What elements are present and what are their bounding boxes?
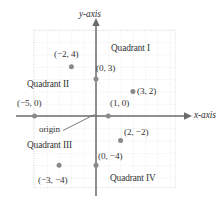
data-point: [106, 114, 111, 119]
x-axis-label: x-axis: [194, 111, 216, 120]
data-point: [118, 138, 123, 143]
data-point: [94, 77, 99, 82]
quadrant-2-label: Quadrant II: [27, 80, 69, 89]
point-label-neg2-4: (−2, 4): [54, 50, 78, 59]
quadrant-4-label: Quadrant IV: [110, 174, 156, 183]
point-label-0-3: (0, 3): [96, 64, 115, 73]
data-point: [57, 163, 62, 168]
y-axis-label: y-axis: [79, 10, 101, 19]
point-label-neg3-neg4: (−3, −4): [38, 176, 67, 185]
data-point: [32, 114, 37, 119]
coordinate-plane-figure: y-axis x-axis origin Quadrant I Quadrant…: [0, 0, 221, 208]
data-point: [94, 163, 99, 168]
quadrant-1-label: Quadrant I: [111, 44, 150, 53]
origin-label: origin: [39, 125, 60, 134]
point-label-1-0: (1, 0): [110, 99, 129, 108]
point-label-neg5-0: (−5, 0): [17, 99, 41, 108]
quadrant-3-label: Quadrant III: [27, 141, 72, 150]
point-label-0-neg4: (0, −4): [98, 152, 122, 161]
point-label-2-neg2: (2, −2): [124, 128, 148, 137]
data-point: [130, 89, 135, 94]
point-label-3-2: (3, 2): [137, 87, 156, 96]
data-point: [69, 64, 74, 69]
